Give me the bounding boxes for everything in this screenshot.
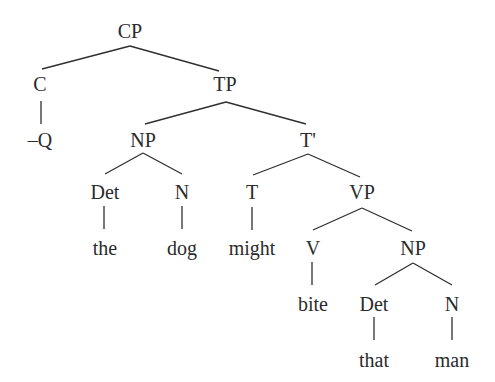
node-det-object: Det (360, 293, 389, 315)
node-det-subject: Det (91, 181, 120, 203)
word-that: that (359, 349, 389, 371)
node-np-object: NP (400, 237, 426, 259)
node-n-object: N (445, 293, 459, 315)
word-bite: bite (298, 293, 328, 315)
node-np-subject: NP (130, 129, 156, 151)
edge-cp-tp (130, 46, 219, 71)
edge-tbar-t (253, 154, 308, 175)
node-c: C (33, 73, 46, 95)
node-v: V (306, 237, 321, 259)
node-cp: CP (118, 20, 142, 42)
syntax-tree: CP C –Q TP NP Det the N dog T' T might V… (0, 0, 495, 382)
edge-np-n2 (413, 263, 452, 285)
word-dog: dog (167, 237, 197, 260)
node-n-subject: N (175, 181, 189, 203)
node-t-bar: T' (300, 129, 316, 151)
edge-tbar-vp (308, 154, 360, 177)
edge-np-n (143, 153, 182, 174)
edge-tp-tbar (226, 102, 306, 124)
edge-np-det (105, 153, 143, 174)
node-t: T (246, 181, 258, 203)
node-vp: VP (349, 181, 375, 203)
word-the: the (93, 237, 118, 259)
word-man: man (435, 349, 469, 371)
word-might: might (229, 237, 276, 260)
edge-vp-np (362, 208, 412, 231)
node-tp: TP (213, 73, 236, 95)
edge-np-det2 (375, 263, 413, 285)
edge-vp-v (313, 208, 362, 230)
edge-cp-c (42, 46, 130, 69)
node-neg-q: –Q (27, 129, 53, 151)
edge-tp-np (145, 102, 226, 124)
tree-nodes: CP C –Q TP NP Det the N dog T' T might V… (27, 20, 469, 371)
